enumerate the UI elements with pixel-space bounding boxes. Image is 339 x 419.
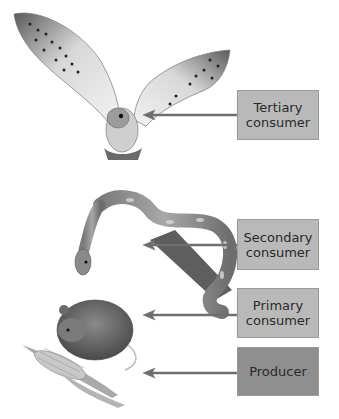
label-producer: Producer (237, 347, 319, 396)
label-line-1: Producer (249, 364, 307, 379)
label-line-1: Tertiary (246, 100, 310, 115)
arrows (143, 110, 237, 378)
label-line-1: Primary (246, 298, 310, 313)
label-line-2: consumer (244, 245, 313, 260)
arrow-icon-producer (143, 368, 237, 378)
label-line-2: consumer (246, 115, 310, 130)
label-primary-consumer: Primary consumer (237, 288, 319, 338)
food-chain-diagram: Tertiary consumer Secondary consumer Pri… (0, 0, 339, 419)
label-line-1: Secondary (244, 230, 313, 245)
snake-icon (75, 197, 232, 312)
label-secondary-consumer: Secondary consumer (237, 219, 319, 270)
label-tertiary-consumer: Tertiary consumer (237, 90, 319, 140)
label-line-2: consumer (246, 313, 310, 328)
owl-icon (14, 13, 230, 160)
